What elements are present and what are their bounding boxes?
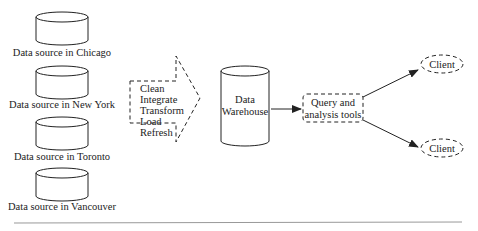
source-toronto-cylinder [36,117,88,150]
tools-label-line1: Query and [311,97,356,108]
source-vancouver-cylinder [36,168,88,201]
diagram-canvas: Data source in Chicago Data source in Ne… [0,0,478,231]
tools-label-line2: analysis tools [305,109,362,120]
tools-to-client1-arrow [363,70,418,97]
warehouse-label-line1: Data [235,94,255,105]
source-chicago-cylinder [36,12,88,45]
tools-to-client2-arrow [363,120,418,147]
etl-step-refresh: Refresh [140,127,173,138]
bottom-rule [14,222,462,223]
etl-step-transform: Transform [140,105,184,116]
etl-step-clean: Clean [140,83,165,94]
warehouse-label-line2: Warehouse [222,106,269,117]
etl-step-integrate: Integrate [140,94,178,105]
source-newyork-cylinder [36,66,88,99]
source-newyork-label: Data source in New York [9,99,116,110]
client2-label: Client [429,143,455,154]
source-chicago-label: Data source in Chicago [13,47,111,58]
source-vancouver-label: Data source in Vancouver [8,201,116,212]
source-toronto-label: Data source in Toronto [14,151,110,162]
etl-step-load: Load [140,116,162,127]
client1-label: Client [429,59,455,70]
